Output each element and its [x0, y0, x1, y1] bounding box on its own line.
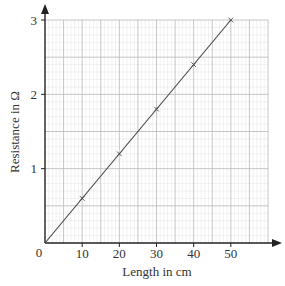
y-axis-arrow-icon	[41, 4, 49, 14]
y-tick-label: 2	[31, 87, 38, 102]
x-tick-label: 40	[187, 246, 200, 261]
origin-label: 0	[36, 245, 43, 260]
y-tick-label: 3	[31, 13, 38, 28]
x-tick-label: 20	[113, 246, 126, 261]
x-tick-label: 30	[150, 246, 163, 261]
x-tick-label: 50	[224, 246, 237, 261]
y-tick-label: 1	[31, 161, 38, 176]
x-axis-label: Length in cm	[122, 264, 191, 279]
x-axis-arrow-icon	[272, 239, 282, 247]
x-tick-label: 10	[76, 246, 89, 261]
chart: 1020304050123 Length in cm Resistance in…	[0, 0, 285, 286]
y-axis-label: Resistance in Ω	[7, 91, 22, 173]
